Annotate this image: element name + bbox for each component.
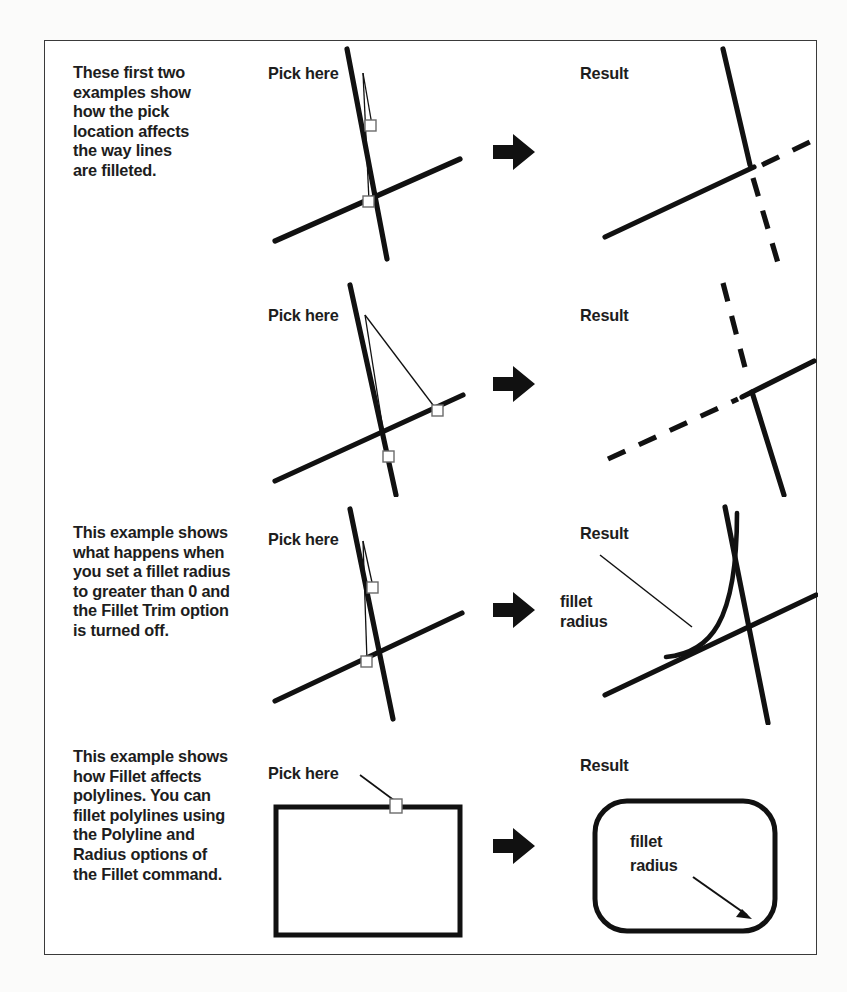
- block-right-arrow-icon: [493, 592, 535, 628]
- fillet-radius-label-line1: fillet: [630, 832, 663, 850]
- result-label: Result: [580, 64, 629, 82]
- example-row-polyline: This example shows how Fillet affects po…: [45, 729, 818, 954]
- result-vertical-full: [725, 507, 768, 723]
- vertical-construction-line: [350, 285, 396, 495]
- vertical-construction-line: [350, 509, 393, 719]
- result-label: Result: [580, 524, 629, 542]
- caption-line: the way lines: [73, 141, 278, 161]
- result-vertical-upper-trimmed: [723, 283, 748, 379]
- result-label: Result: [580, 756, 629, 774]
- result-horizontal-left-kept: [605, 167, 754, 237]
- block-right-arrow-icon: [493, 366, 535, 402]
- caption-line: how the pick: [73, 102, 278, 122]
- result-vertical-upper-kept: [723, 49, 750, 165]
- caption-line: are filleted.: [73, 161, 278, 181]
- pick-here-label: Pick here: [268, 530, 339, 548]
- fillet-radius-label-line1: fillet: [560, 592, 593, 610]
- example-row-fillet-no-trim: This example shows what happens when you…: [45, 503, 818, 725]
- pick-box-vertical-lower[interactable]: [383, 451, 394, 462]
- example-row-pick-lower: Pick here Result: [45, 279, 818, 497]
- result-vertical-lower-trimmed: [753, 178, 778, 263]
- caption-line: These first two: [73, 63, 278, 83]
- fillet-radius-label-line2: radius: [560, 612, 608, 630]
- row-1-caption: These first two examples show how the pi…: [73, 63, 278, 181]
- result-horizontal-left-trimmed: [608, 399, 738, 459]
- pick-here-label: Pick here: [268, 764, 339, 782]
- block-right-arrow-icon: [493, 828, 535, 864]
- row-3-figure: Pick here Result: [250, 503, 818, 725]
- page-background: These first two examples show how the pi…: [0, 0, 847, 992]
- fillet-radius-label-line2: radius: [630, 856, 678, 874]
- rectangle-polyline: [276, 807, 460, 935]
- pick-box-horizontal[interactable]: [361, 656, 372, 667]
- result-horizontal-right-kept: [742, 361, 814, 397]
- result-horizontal-full: [605, 595, 816, 695]
- result-vertical-lower-kept: [752, 392, 784, 495]
- pick-box-vertical[interactable]: [367, 582, 378, 593]
- fillet-radius-leader: [600, 555, 692, 627]
- row-2-figure: Pick here Result: [250, 279, 818, 497]
- pick-box-vertical[interactable]: [365, 120, 376, 131]
- block-right-arrow-icon: [493, 134, 535, 170]
- result-horizontal-right-trimmed: [762, 139, 816, 165]
- row-4-figure: Pick here Result fillet radius: [250, 729, 818, 954]
- figure-border: These first two examples show how the pi…: [44, 40, 817, 955]
- pick-here-label: Pick here: [268, 64, 339, 82]
- caption-line: examples show: [73, 83, 278, 103]
- row-1-figure: Pick here Result: [250, 41, 818, 271]
- pick-here-leader: [360, 775, 395, 801]
- example-row-pick-upper: These first two examples show how the pi…: [45, 41, 818, 271]
- pick-here-label: Pick here: [268, 306, 339, 324]
- rounded-rectangle-polyline: [595, 801, 775, 931]
- pick-box-horizontal-right[interactable]: [432, 405, 443, 416]
- result-label: Result: [580, 306, 629, 324]
- pick-box-horizontal[interactable]: [363, 196, 374, 207]
- caption-line: location affects: [73, 122, 278, 142]
- pick-box-rectangle-top-edge[interactable]: [390, 799, 402, 813]
